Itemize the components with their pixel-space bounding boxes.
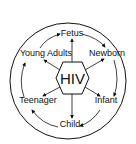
stage-newborn: Newborn: [89, 48, 125, 58]
stage-fetus: Fetus: [61, 28, 84, 38]
stage-infant: Infant: [95, 95, 118, 105]
hiv-cycle-diagram: HIV Fetus Newborn Infant Child Teenager …: [0, 0, 136, 144]
stage-child: Child: [60, 119, 81, 129]
stage-teenager: Teenager: [19, 95, 57, 105]
stage-young-adults: Young Adults: [20, 48, 73, 58]
hiv-label: HIV: [60, 70, 85, 87]
